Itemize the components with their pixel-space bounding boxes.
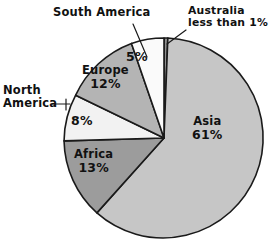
pie-value-north-america-text: 8% <box>71 114 93 128</box>
pie-value-asia: 61% <box>192 128 223 142</box>
pie-value-europe: 12% <box>82 77 129 91</box>
pie-label-asia-text: Asia <box>192 115 223 128</box>
pie-value-north-america: 8% <box>71 114 93 128</box>
pie-label-africa: Africa 13% <box>74 148 113 175</box>
pie-chart: South America Australia less than 1% Nor… <box>0 0 271 247</box>
pie-label-europe-text: Europe <box>82 64 129 77</box>
pie-value-south-america: 5% <box>126 50 148 64</box>
pie-chart-graphic <box>0 0 271 247</box>
pie-label-australia: Australia less than 1% <box>188 5 268 29</box>
pie-value-south-america-text: 5% <box>126 50 148 64</box>
pie-label-south-america-text: South America <box>53 6 151 19</box>
pie-label-africa-text: Africa <box>74 148 113 161</box>
pie-label-north-america-line2: America <box>3 97 57 110</box>
pie-value-africa: 13% <box>74 161 113 175</box>
pie-label-australia-line2: less than 1% <box>188 17 268 29</box>
pie-label-north-america: North America <box>3 84 57 110</box>
pie-label-europe: Europe 12% <box>82 64 129 91</box>
pie-label-asia: Asia 61% <box>192 115 223 142</box>
pie-label-north-america-line1: North <box>3 84 57 97</box>
pie-label-south-america: South America <box>53 6 151 19</box>
